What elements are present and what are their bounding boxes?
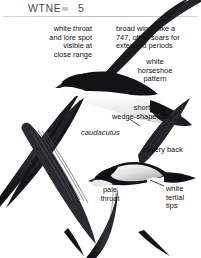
annotation-white-throat-lore-spot: white throat and lore spot visible at cl… [4, 25, 92, 59]
annotation-pale-throat: pale throat [92, 186, 128, 203]
annotation-white-horseshoe-pattern: white horseshoe pattern [120, 58, 190, 84]
annotation-short-wedge-shaped-tail: short wedge-shaped tail [94, 104, 190, 121]
field-guide-plate-page: WTNE 5 [0, 0, 201, 258]
annotation-white-tertial-tips: white tertial tips [166, 185, 200, 211]
bottom-wing-tip-left [64, 228, 84, 256]
bottom-wing-tips [64, 228, 170, 256]
bottom-wing-tip-right [138, 230, 170, 256]
annotation-caudacutus-species-name: caudacutus [81, 129, 141, 138]
upper-bird-bill [55, 84, 62, 88]
lower-bird-tail [164, 172, 196, 183]
annotation-broad-wings-747: broad wings like a 747, often soars for … [116, 25, 200, 51]
annotation-silvery-back: silvery back [144, 146, 200, 155]
